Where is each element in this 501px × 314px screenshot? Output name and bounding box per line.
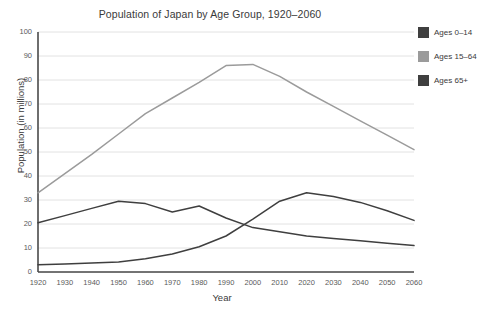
chart-container: Population of Japan by Age Group, 1920–2… [0, 0, 501, 314]
series-line-3 [38, 193, 414, 265]
y-tick-label: 0 [8, 267, 32, 276]
legend-item-label: Ages 65+ [434, 76, 468, 85]
y-tick-label: 50 [8, 147, 32, 156]
y-tick-label: 70 [8, 99, 32, 108]
legend-item-2[interactable]: Ages 15–64 [418, 50, 500, 62]
series-line-2 [38, 64, 414, 192]
legend-item-1[interactable]: Ages 0–14 [418, 26, 500, 38]
legend-item-label: Ages 15–64 [434, 52, 477, 61]
chart-legend: Ages 0–14Ages 15–64Ages 65+ [418, 26, 500, 98]
y-tick-label: 90 [8, 51, 32, 60]
legend-swatch-icon [418, 27, 429, 38]
legend-item-label: Ages 0–14 [434, 28, 472, 37]
y-tick-label: 40 [8, 171, 32, 180]
y-tick-label: 10 [8, 243, 32, 252]
y-tick-label: 20 [8, 219, 32, 228]
series-line-1 [38, 201, 414, 245]
y-tick-label: 80 [8, 75, 32, 84]
legend-item-3[interactable]: Ages 65+ [418, 74, 500, 86]
x-tick-label: 2060 [394, 278, 434, 287]
y-tick-label: 30 [8, 195, 32, 204]
legend-swatch-icon [418, 75, 429, 86]
legend-swatch-icon [418, 51, 429, 62]
y-tick-label: 60 [8, 123, 32, 132]
y-tick-label: 100 [8, 27, 32, 36]
